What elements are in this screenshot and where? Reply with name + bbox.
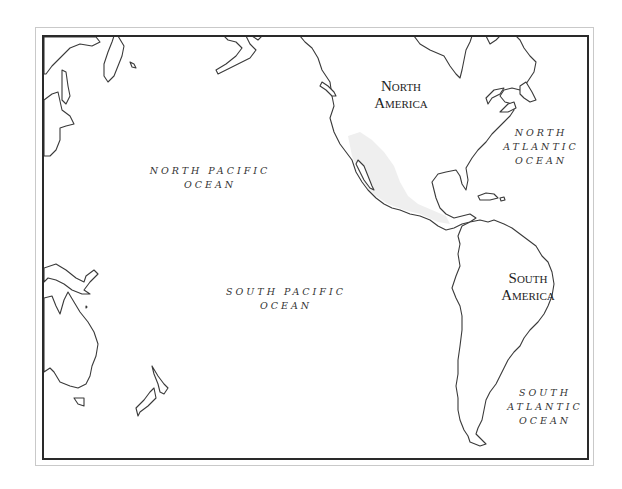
japan-islands — [44, 92, 74, 156]
label-north-atlantic-line2: ATLANTIC — [496, 140, 586, 154]
label-north-atlantic-ocean: NORTH ATLANTIC OCEAN — [496, 126, 586, 168]
hispaniola-island — [500, 197, 505, 201]
kamchatka-peninsula — [104, 36, 124, 82]
asia-mainland — [44, 37, 100, 74]
label-south-america: South America — [493, 270, 563, 304]
label-north-america-line1: North — [366, 78, 436, 95]
label-north-pacific-line1: NORTH PACIFIC — [140, 164, 280, 178]
label-north-america-line2: America — [366, 95, 436, 112]
label-south-america-line1: South — [493, 270, 563, 287]
label-south-atlantic-line3: OCEAN — [500, 414, 590, 428]
tasmania-island — [74, 398, 84, 406]
label-north-pacific-ocean: NORTH PACIFIC OCEAN — [140, 164, 280, 192]
coral-sea-islet — [86, 306, 87, 308]
label-north-atlantic-line3: OCEAN — [496, 154, 586, 168]
label-south-atlantic-line1: SOUTH — [500, 386, 590, 400]
label-south-america-line2: America — [493, 287, 563, 304]
label-south-pacific-line2: OCEAN — [216, 299, 356, 313]
new-zealand-south-island — [136, 388, 156, 416]
kuril-islet — [130, 62, 136, 68]
sakhalin-island — [62, 70, 70, 104]
aleutian-islet — [252, 36, 262, 40]
label-south-pacific-ocean: SOUTH PACIFIC OCEAN — [216, 285, 356, 313]
label-north-atlantic-line1: NORTH — [496, 126, 586, 140]
australia-landmass — [44, 292, 98, 388]
label-south-atlantic-line2: ATLANTIC — [500, 400, 590, 414]
cuba-island — [478, 193, 498, 200]
label-north-pacific-line2: OCEAN — [140, 178, 280, 192]
alaska-peninsula — [216, 36, 256, 74]
label-south-pacific-line1: SOUTH PACIFIC — [216, 285, 356, 299]
label-north-america: North America — [366, 78, 436, 112]
label-south-atlantic-ocean: SOUTH ATLANTIC OCEAN — [500, 386, 590, 428]
newfoundland — [520, 82, 536, 102]
new-guinea-island — [44, 264, 98, 294]
